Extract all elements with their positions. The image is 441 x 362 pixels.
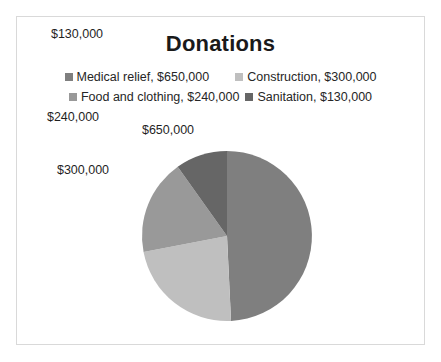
pie-slice[interactable] xyxy=(142,167,227,252)
legend-item-sanitation[interactable]: Sanitation, $130,000 xyxy=(245,90,372,104)
chart-title: Donations xyxy=(17,31,424,57)
legend-square-icon xyxy=(65,73,73,81)
legend-square-icon xyxy=(69,93,77,101)
chart-container: Donations Medical relief, $650,000 Const… xyxy=(16,16,425,345)
legend-square-icon xyxy=(235,73,243,81)
legend-item-label: Food and clothing, $240,000 xyxy=(81,90,239,104)
pie-slice-label-medical-relief: $650,000 xyxy=(142,123,194,137)
legend-row: Medical relief, $650,000 Construction, $… xyxy=(17,67,424,87)
legend-item-medical-relief[interactable]: Medical relief, $650,000 xyxy=(65,70,210,84)
legend-item-label: Medical relief, $650,000 xyxy=(77,70,210,84)
legend-item-food-and-clothing[interactable]: Food and clothing, $240,000 xyxy=(69,90,239,104)
pie-slice-label-food-and-clothing: $240,000 xyxy=(47,110,99,124)
pie-slice[interactable] xyxy=(144,236,231,321)
pie-slice[interactable] xyxy=(227,151,312,321)
pie-slice[interactable] xyxy=(178,151,227,236)
chart-legend: Medical relief, $650,000 Construction, $… xyxy=(17,67,424,107)
legend-row: Food and clothing, $240,000 Sanitation, … xyxy=(17,87,424,107)
legend-item-construction[interactable]: Construction, $300,000 xyxy=(235,70,376,84)
legend-item-label: Sanitation, $130,000 xyxy=(257,90,372,104)
legend-item-label: Construction, $300,000 xyxy=(247,70,376,84)
pie-slice-label-construction: $300,000 xyxy=(57,163,109,177)
legend-square-icon xyxy=(245,93,253,101)
